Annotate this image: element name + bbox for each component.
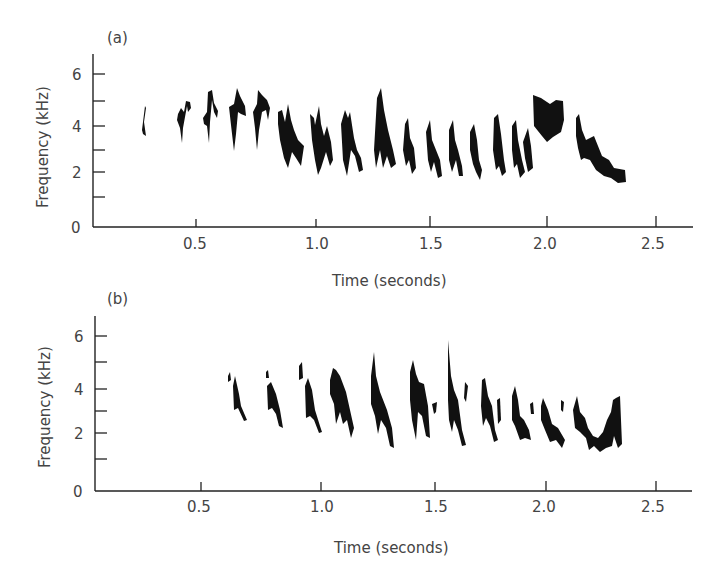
panel-b-xtick-1.0: 1.0	[310, 498, 334, 516]
panel-a: (a) 6 4 2 0 0.5 1.0 1.5 2.0 2.5 Time (	[34, 29, 693, 290]
panel-b-xtick-2.5: 2.5	[641, 498, 665, 516]
panel-a-ytick-6: 6	[72, 66, 82, 84]
panel-b-y-ticks	[95, 336, 107, 459]
panel-b-ytick-6: 6	[74, 328, 84, 346]
panel-b-ytick-2: 2	[74, 425, 84, 443]
panel-a-y-ticks	[93, 74, 105, 197]
panel-a-xtick-0.5: 0.5	[183, 235, 207, 253]
panel-b-xtick-0.5: 0.5	[187, 498, 211, 516]
panel-a-spectrogram	[142, 88, 626, 183]
panel-a-ytick-4: 4	[72, 118, 82, 136]
panel-a-ytick-0: 0	[71, 219, 81, 237]
panel-a-label: (a)	[107, 29, 128, 47]
panel-b-label: (b)	[107, 290, 128, 308]
panel-a-ytick-2: 2	[72, 164, 82, 182]
figure: (a) 6 4 2 0 0.5 1.0 1.5 2.0 2.5 Time (	[0, 0, 720, 586]
panel-b-ytick-0: 0	[73, 483, 83, 501]
panel-a-x-label: Time (seconds)	[331, 272, 447, 290]
panel-a-x-ticks	[196, 216, 656, 227]
panel-a-y-label: Frequency (kHz)	[34, 86, 52, 208]
panel-b: (b) 6 4 2 0 0.5 1.0 1.5 2.0 2.5 Time (se…	[36, 290, 692, 557]
panel-a-xtick-1.0: 1.0	[305, 235, 329, 253]
panel-b-xtick-2.0: 2.0	[532, 498, 556, 516]
panel-a-xtick-2.5: 2.5	[641, 235, 665, 253]
panel-b-x-label: Time (seconds)	[333, 539, 449, 557]
panel-b-y-label: Frequency (kHz)	[36, 346, 54, 468]
panel-b-xtick-1.5: 1.5	[424, 498, 448, 516]
panel-b-ytick-4: 4	[74, 381, 84, 399]
panel-a-xtick-1.5: 1.5	[419, 235, 443, 253]
panel-a-xtick-2.0: 2.0	[533, 235, 557, 253]
panel-b-spectrogram	[228, 340, 622, 452]
panel-b-x-ticks	[201, 481, 656, 491]
